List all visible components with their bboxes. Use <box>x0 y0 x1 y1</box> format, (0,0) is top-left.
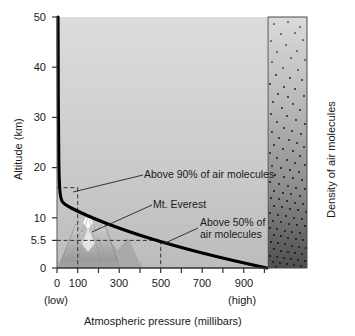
x-axis-title: Atmospheric pressure (millibars) <box>84 315 242 327</box>
x-tick-label-300: 300 <box>105 277 133 289</box>
x-axis-high-label: (high) <box>228 294 256 306</box>
y-tick-label-0: 0 <box>18 262 46 274</box>
x-tick-label-900: 900 <box>230 277 258 289</box>
annotation-above-50-percent-line2: air molecules <box>200 228 262 240</box>
annotation-above-50-percent-line1: Above 50% of <box>200 216 265 228</box>
annotation-above-90-percent: Above 90% of air molecules <box>144 168 274 180</box>
y-axis-ticks <box>52 17 57 268</box>
y-tick-label-40: 40 <box>18 61 46 73</box>
annotation-mt-everest: Mt. Everest <box>153 198 206 210</box>
atmospheric-pressure-chart: 50 40 30 20 10 5.5 0 0 100 300 500 700 9… <box>0 0 355 336</box>
x-tick-label-500: 500 <box>147 277 175 289</box>
x-tick-label-700: 700 <box>188 277 216 289</box>
x-tick-label-100: 100 <box>64 277 92 289</box>
density-panel-title: Density of air molecules <box>325 101 337 218</box>
y-axis-title: Altitude (km) <box>12 118 24 180</box>
y-tick-label-10: 10 <box>18 212 46 224</box>
y-tick-label-5-5: 5.5 <box>14 234 46 246</box>
density-panel-background <box>268 17 307 268</box>
x-axis-ticks <box>57 268 264 273</box>
y-tick-label-50: 50 <box>18 11 46 23</box>
x-axis-low-label: (low) <box>44 294 68 306</box>
